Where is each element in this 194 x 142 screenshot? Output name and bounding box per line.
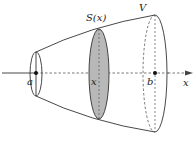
- solid-diagram: S(x) V a x b x: [0, 0, 194, 142]
- point-b: [153, 71, 157, 75]
- point-a: [34, 71, 38, 75]
- label-x-position: x: [91, 76, 97, 87]
- label-x-axis: x: [183, 77, 189, 88]
- axis-arrow-icon: [185, 71, 193, 76]
- label-section: S(x): [86, 12, 106, 23]
- label-b: b: [147, 76, 153, 87]
- label-volume: V: [139, 2, 148, 13]
- label-a: a: [27, 76, 33, 87]
